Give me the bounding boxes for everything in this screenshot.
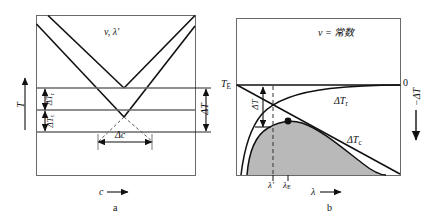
two-panel-figure — [0, 0, 437, 221]
panel-b-title: v = 常数 — [318, 28, 354, 38]
panel-a-delta-tr-label: ΔTr — [45, 93, 55, 105]
delta-tr-sub: r — [48, 93, 55, 95]
panel-a-caption: a — [113, 203, 117, 213]
panel-b — [237, 19, 417, 193]
panel-b-curve-c-label: ΔTc — [347, 135, 362, 147]
panel-a-top-label: v, λ' — [104, 27, 119, 37]
panel-b-curve-r-label: ΔTr — [334, 96, 348, 108]
delta-tc-sub: c — [48, 114, 55, 117]
tick-1-text: λ' — [268, 180, 274, 190]
tick-2-sub: E — [287, 183, 291, 190]
panel-a-delta-tc-label: ΔTc — [46, 114, 56, 127]
panel-b-zero-label: 0 — [403, 78, 408, 88]
curve-r-main: ΔT — [334, 95, 345, 106]
panel-a-x-axis-label: c — [99, 187, 103, 197]
panel-b-tick-label-lambda-prime: λ' — [268, 181, 274, 190]
delta-tc-main: ΔT — [45, 117, 55, 127]
panel-a-delta-t-label: ΔT — [200, 103, 210, 114]
delta-tr-main: ΔT — [44, 95, 54, 105]
panel-b-delta-t-text: ΔT — [250, 99, 260, 109]
panel-b-x-axis-label: λ — [311, 187, 315, 197]
panel-b-y-right-label: −ΔT — [412, 88, 422, 106]
panel-b-title-text: v = 常数 — [318, 27, 354, 38]
panel-b-caption: b — [327, 203, 332, 213]
te-sub: E — [227, 83, 231, 91]
curve-r-sub: r — [345, 100, 347, 108]
panel-b-delta-t-label: ΔT — [251, 99, 260, 109]
panel-a-y-axis-label: T — [16, 102, 26, 108]
curve-c-main: ΔT — [347, 134, 358, 145]
lambda-e-point — [285, 118, 292, 125]
curve-c-sub: c — [358, 139, 361, 147]
panel-b-tick-label-lambda-e: λE — [283, 181, 291, 191]
panel-b-te-label: TE — [221, 79, 231, 91]
panel-a-delta-c-label: Δc — [115, 130, 125, 140]
